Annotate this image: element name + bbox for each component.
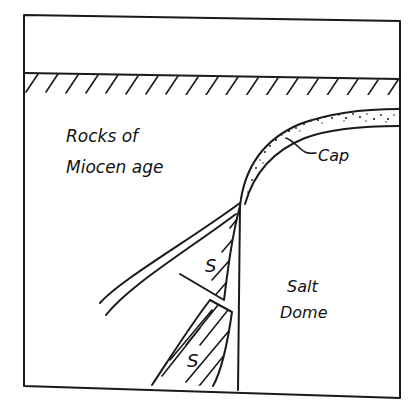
cap-label: Cap [318, 146, 349, 165]
surface-layer [24, 73, 400, 98]
sand-wedge-lower [152, 300, 238, 390]
rocks-label-line1: Rocks of [66, 126, 141, 146]
salt-label-line1: Salt [287, 277, 318, 296]
salt-label-line2: Dome [280, 303, 328, 322]
salt-dome-cross-section: Rocks of Miocen age Cap Salt Dome S S [0, 0, 418, 404]
salt-dome-boundary [238, 206, 240, 390]
rocks-label-line2: Miocen age [66, 157, 163, 177]
frame [24, 15, 400, 398]
sand-label-lower: S [187, 350, 198, 371]
sand-label-upper: S [205, 255, 216, 276]
